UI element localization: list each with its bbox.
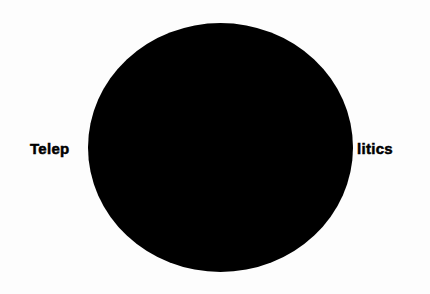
- black-disc: [88, 23, 353, 272]
- text-fragment-right: litics: [357, 140, 393, 158]
- text-fragment-left: Telep: [30, 140, 70, 158]
- canvas: Telep litics: [0, 0, 430, 294]
